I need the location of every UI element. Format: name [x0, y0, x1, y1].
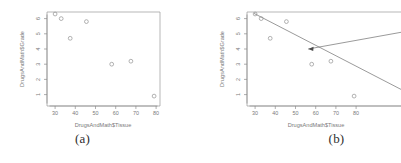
x-tick-label: 80: [153, 110, 159, 116]
data-point: [68, 36, 72, 40]
data-points-b: [253, 12, 356, 98]
y-tick-label: 4: [235, 48, 241, 51]
y-axis-a: 6 5 4 3 2 1: [35, 15, 47, 104]
x-tick-label: 40: [272, 110, 278, 116]
x-tick-label: 80: [353, 110, 359, 116]
scatter-plot-a: 6 5 4 3 2 1 30 40 50 60 70: [0, 0, 201, 130]
data-point: [268, 36, 272, 40]
regression-line: [254, 13, 401, 89]
axis-box-a: [47, 12, 160, 106]
y-axis-label: DrugsAndMath$Grade: [219, 31, 225, 87]
data-point: [329, 59, 333, 63]
y-axis-b: 6 5 4 3 2 1: [235, 15, 247, 104]
data-point: [310, 62, 314, 66]
x-tick-label: 30: [52, 110, 58, 116]
x-tick-label: 30: [252, 110, 258, 116]
annotation-arrow-line: [308, 32, 401, 49]
data-point: [352, 94, 356, 98]
x-tick-label: 60: [113, 110, 119, 116]
y-axis-label: DrugsAndMath$Grade: [19, 31, 25, 87]
data-point: [152, 94, 156, 98]
panel-caption-b: (b): [236, 131, 401, 147]
data-points-a: [53, 12, 156, 98]
data-point: [59, 17, 63, 21]
y-tick-label: 3: [235, 63, 241, 66]
x-axis-label: DrugsAndMath$Tissue: [75, 122, 132, 128]
y-tick-label: 1: [235, 93, 241, 96]
panel-b: 6 5 4 3 2 1 30 40 50 60 70: [200, 0, 401, 163]
data-point: [53, 12, 57, 16]
data-point: [129, 59, 133, 63]
y-tick-label: 1: [35, 93, 41, 96]
x-tick-label: 70: [333, 110, 339, 116]
panel-a: 6 5 4 3 2 1 30 40 50 60 70: [0, 0, 201, 163]
data-point: [85, 20, 89, 24]
data-point: [285, 20, 289, 24]
data-point: [110, 62, 114, 66]
x-axis-b: 30 40 50 60 70 80: [250, 106, 401, 116]
y-tick-label: 2: [35, 78, 41, 81]
panel-caption-a: (a): [0, 131, 183, 147]
figure-container: 6 5 4 3 2 1 30 40 50 60 70: [0, 0, 401, 163]
scatter-plot-b: 6 5 4 3 2 1 30 40 50 60 70: [200, 0, 401, 130]
y-tick-label: 5: [235, 32, 241, 35]
x-tick-label: 50: [293, 110, 299, 116]
x-tick-label: 50: [93, 110, 99, 116]
x-tick-label: 60: [313, 110, 319, 116]
x-tick-label: 70: [133, 110, 139, 116]
annotation-arrow-head: [308, 47, 313, 51]
x-axis-a: 30 40 50 60 70 80: [50, 106, 160, 116]
y-tick-label: 4: [35, 48, 41, 51]
y-tick-label: 3: [35, 63, 41, 66]
x-axis-label: DrugsAndMath$Tissue: [288, 122, 345, 128]
y-tick-label: 2: [235, 78, 241, 81]
x-tick-label: 40: [72, 110, 78, 116]
y-tick-label: 5: [35, 32, 41, 35]
y-tick-label: 6: [35, 17, 41, 20]
y-tick-label: 6: [235, 17, 241, 20]
axis-box-b: [247, 12, 401, 106]
